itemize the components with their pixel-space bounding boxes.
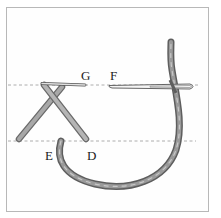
- label-e: E: [45, 148, 53, 163]
- label-f: F: [110, 68, 117, 83]
- needle-icon: [109, 80, 193, 93]
- label-d: D: [87, 148, 96, 163]
- working-thread: [59, 42, 179, 186]
- stitch-diagram: G F E D: [0, 0, 221, 218]
- cross-stitch: [19, 84, 86, 140]
- label-g: G: [81, 68, 90, 83]
